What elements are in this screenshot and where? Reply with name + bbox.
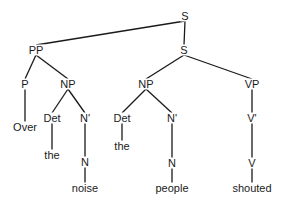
tree-node-vbar: V' [246, 113, 257, 124]
tree-node-nbar1: N' [79, 113, 91, 124]
tree-node-np2: NP [137, 79, 154, 90]
tree-node-noise: noise [71, 183, 99, 194]
tree-node-pp: PP [28, 45, 45, 56]
edge-s_low-vp [184, 55, 252, 79]
tree-node-the2: the [113, 141, 130, 152]
tree-node-over: Over [12, 122, 38, 133]
tree-node-the1: the [43, 150, 60, 161]
edge-s_top-s_low [184, 21, 185, 45]
edge-pp-np1 [36, 55, 68, 79]
edge-s_top-pp [36, 21, 185, 45]
edge-np1-nbar1 [68, 89, 85, 113]
edge-np2-det2 [122, 89, 146, 113]
tree-node-s_top: S [180, 11, 189, 22]
tree-edges [0, 0, 289, 204]
edge-np2-nbar2 [146, 89, 172, 113]
edge-np1-det1 [52, 89, 68, 113]
syntax-tree: SSPPPOverNPDettheN'NnoiseNPDettheN'Npeop… [0, 0, 289, 204]
tree-node-v: V [247, 158, 256, 169]
tree-node-det1: Det [42, 113, 61, 124]
tree-node-nbar2: N' [166, 113, 178, 124]
tree-node-s_low: S [179, 45, 188, 56]
tree-node-np1: NP [59, 79, 76, 90]
edge-s_low-np2 [146, 55, 184, 79]
tree-node-det2: Det [112, 113, 131, 124]
tree-node-vp: VP [244, 79, 261, 90]
tree-node-p: P [20, 79, 29, 90]
tree-node-n2: N [167, 158, 177, 169]
tree-node-people: people [154, 183, 189, 194]
tree-node-n1: N [80, 157, 90, 168]
tree-node-shouted: shouted [231, 183, 272, 194]
edge-pp-p [25, 55, 36, 79]
